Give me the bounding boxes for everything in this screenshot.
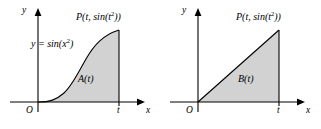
point-label-P-close: )) <box>274 11 281 22</box>
point-label-P-open: (t, sin( <box>242 11 268 22</box>
point-label-P: P(t, sin(t2)) <box>76 12 121 22</box>
area-label-A-arg: (t) <box>84 73 93 84</box>
point-label-P-close: )) <box>114 11 121 22</box>
point-label-P: P(t, sin(t2)) <box>236 12 281 22</box>
y-axis-arrowhead <box>35 8 42 16</box>
figure-pair: y x O t P(t, sin(t2)) y = sin(x2) A(t) y… <box>0 0 321 129</box>
x-tick-label-t: t <box>277 106 280 116</box>
origin-label: O <box>186 106 193 116</box>
area-label-B-arg: (t) <box>244 73 253 84</box>
area-label-B: B(t) <box>238 74 254 84</box>
panel-triangle-area: y x O t P(t, sin(t2)) B(t) <box>160 0 321 129</box>
x-axis-label: x <box>306 106 310 116</box>
x-axis-arrowhead <box>137 99 145 106</box>
y-axis-arrowhead <box>195 8 202 16</box>
curve-equation-suffix: ) <box>70 38 73 49</box>
point-label-P-open: (t, sin( <box>82 11 108 22</box>
x-axis-arrowhead <box>297 99 305 106</box>
curve-equation-label: y = sin(x2) <box>31 39 73 49</box>
x-axis-label: x <box>146 106 150 116</box>
origin-label: O <box>26 106 33 116</box>
panel-area-under-curve: y x O t P(t, sin(t2)) y = sin(x2) A(t) <box>0 0 161 129</box>
curve-equation-prefix: y = sin( <box>31 38 62 49</box>
area-label-A: A(t) <box>78 74 94 84</box>
y-axis-label: y <box>22 6 26 16</box>
x-tick-label-t: t <box>117 106 120 116</box>
y-axis-label: y <box>182 6 186 16</box>
